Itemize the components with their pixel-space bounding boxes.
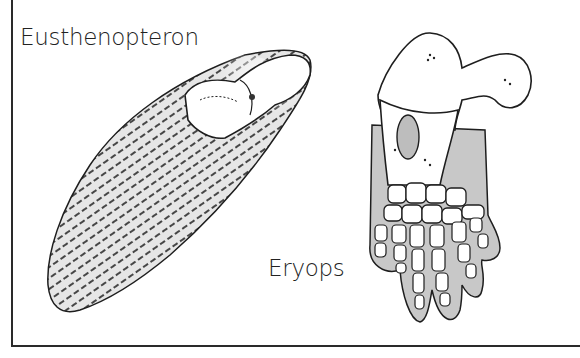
- eryops-forelimb-illustration: [370, 33, 531, 322]
- eusthenopteron-fin-illustration: [48, 50, 311, 311]
- figure-canvas: Eusthenopteron Eryops: [0, 0, 580, 358]
